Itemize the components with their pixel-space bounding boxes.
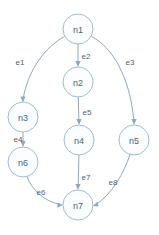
node-n4-label: n4 <box>74 136 84 146</box>
edge-e2[interactable]: e2 <box>75 44 91 67</box>
edge-e2-label: e2 <box>82 52 91 61</box>
node-n3-label: n3 <box>18 113 28 123</box>
edge-e7-label: e7 <box>82 173 91 182</box>
node-n6-label: n6 <box>18 158 28 168</box>
edge-e8-label: e8 <box>109 178 118 187</box>
edge-e6-label: e6 <box>37 188 46 197</box>
edge-e2-arrowhead <box>75 61 80 67</box>
node-n3[interactable]: n3 <box>8 102 38 132</box>
edge-e8[interactable]: e8 <box>93 155 130 207</box>
edge-e1[interactable]: e1 <box>16 37 65 103</box>
edge-e3-label: e3 <box>126 58 135 67</box>
edge-e1-path <box>23 37 65 100</box>
node-n6[interactable]: n6 <box>8 147 38 177</box>
edge-e4[interactable]: e4 <box>14 132 26 147</box>
edge-e5-path <box>78 97 79 122</box>
node-n2-label: n2 <box>73 78 83 88</box>
edge-e3-path <box>92 37 135 123</box>
edge-e7-path <box>78 155 79 187</box>
edge-e7[interactable]: e7 <box>75 155 91 190</box>
edge-e5[interactable]: e5 <box>76 97 92 125</box>
edge-e5-arrowhead <box>76 119 81 125</box>
edge-e7-arrowhead <box>75 184 80 190</box>
node-n7[interactable]: n7 <box>63 190 93 220</box>
node-n1-label: n1 <box>73 25 83 35</box>
edge-e3[interactable]: e3 <box>92 37 137 126</box>
edge-e6[interactable]: e6 <box>27 177 63 208</box>
edge-e4-label: e4 <box>14 135 23 144</box>
node-n5[interactable]: n5 <box>119 125 149 155</box>
node-n4[interactable]: n4 <box>64 125 94 155</box>
node-n5-label: n5 <box>129 136 139 146</box>
node-n2[interactable]: n2 <box>63 67 93 97</box>
edge-e6-arrowhead <box>57 203 63 208</box>
node-n1[interactable]: n1 <box>63 14 93 44</box>
node-n7-label: n7 <box>73 201 83 211</box>
edge-e8-arrowhead <box>93 202 99 207</box>
edge-e3-arrowhead <box>131 119 136 125</box>
graph-diagram-canvas: e1 e2 e3 e4 e5 e6 <box>0 0 159 235</box>
graph-svg: e1 e2 e3 e4 e5 e6 <box>0 0 159 235</box>
edge-e1-label: e1 <box>16 58 25 67</box>
edge-e5-label: e5 <box>83 108 92 117</box>
